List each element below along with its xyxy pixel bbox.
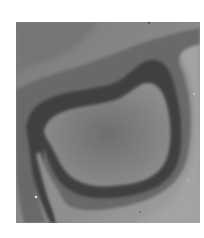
speck xyxy=(193,93,195,95)
speck xyxy=(139,211,141,213)
speck xyxy=(35,196,38,199)
image-svg xyxy=(16,22,200,223)
speck xyxy=(187,179,189,181)
canvas xyxy=(0,0,204,238)
grayscale-image xyxy=(16,22,200,223)
